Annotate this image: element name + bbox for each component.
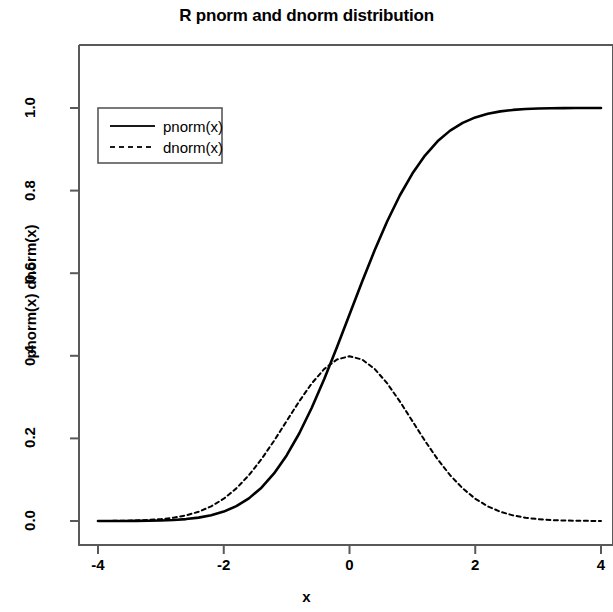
x-tick-label: 2 bbox=[455, 556, 495, 573]
x-tick-label: -4 bbox=[78, 556, 118, 573]
chart-title: R pnorm and dnorm distribution bbox=[0, 6, 613, 26]
y-tick-label: 0.2 bbox=[21, 415, 38, 461]
y-axis-ticks bbox=[70, 108, 79, 521]
series-line-dnormx bbox=[98, 356, 601, 521]
legend-label-pnorm: pnorm(x) bbox=[163, 118, 223, 135]
x-axis-title: x bbox=[0, 588, 613, 605]
data-series-layer bbox=[98, 108, 601, 521]
x-tick-label: -2 bbox=[204, 556, 244, 573]
x-axis-ticks bbox=[98, 545, 601, 554]
legend-label-dnorm: dnorm(x) bbox=[163, 139, 223, 156]
chart-canvas: R pnorm and dnorm distribution pnorm(x) … bbox=[0, 0, 613, 612]
series-line-pnormx bbox=[98, 108, 601, 521]
x-tick-label: 0 bbox=[330, 556, 370, 573]
y-axis-title: pnorm(x) dnorm(x) bbox=[22, 172, 39, 412]
plot-area-svg bbox=[0, 0, 613, 612]
y-tick-label: 1.0 bbox=[21, 85, 38, 131]
x-tick-label: 4 bbox=[581, 556, 613, 573]
y-tick-label: 0.0 bbox=[21, 498, 38, 544]
